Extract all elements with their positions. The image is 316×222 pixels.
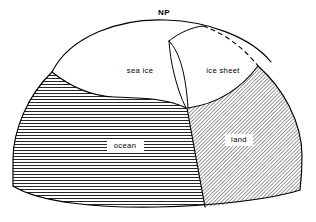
- land-label: land: [231, 135, 247, 144]
- label-land: land: [225, 134, 253, 146]
- north-pole-label: NP: [158, 8, 170, 17]
- label-north-pole: NP: [153, 6, 175, 18]
- ocean-label: ocean: [114, 141, 136, 150]
- label-ocean: ocean: [107, 140, 144, 152]
- polar-cap-diagram: NP sea ice ice sheet ocean land: [0, 0, 316, 222]
- figure-canvas: NP sea ice ice sheet ocean land: [0, 0, 316, 222]
- sea-ice-label: sea ice: [127, 66, 154, 75]
- ice-sheet-label: ice sheet: [206, 66, 240, 75]
- label-sea-ice: sea ice: [117, 65, 163, 77]
- label-ice-sheet: ice sheet: [198, 65, 248, 77]
